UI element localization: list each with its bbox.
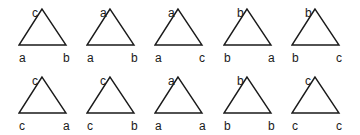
bottom-left-label: b <box>292 52 299 64</box>
triangle-r1-c3: a a c <box>154 4 222 66</box>
apex-label: c <box>32 75 38 87</box>
bottom-left-label: a <box>87 52 94 64</box>
bottom-right-label: a <box>63 120 70 132</box>
apex-label: a <box>100 7 107 19</box>
triangle-shape <box>291 4 359 66</box>
triangle-r2-c2: c c b <box>86 72 154 134</box>
bottom-left-label: b <box>224 120 231 132</box>
triangle-r2-c5: c c c <box>291 72 359 134</box>
triangle-r2-c4: b b b <box>223 72 291 134</box>
triangle-shape <box>18 72 86 134</box>
bottom-right-label: a <box>268 52 275 64</box>
bottom-right-label: b <box>131 52 138 64</box>
bottom-right-label: b <box>131 120 138 132</box>
apex-label: b <box>237 7 244 19</box>
triangle-r1-c4: b b a <box>223 4 291 66</box>
triangle-r2-c1: c c a <box>18 72 86 134</box>
triangle-shape <box>223 72 291 134</box>
bottom-right-label: c <box>336 52 342 64</box>
apex-label: b <box>237 75 244 87</box>
triangle-grid: c a b a a b a a c b b a b b c c c a c c … <box>0 0 360 135</box>
bottom-right-label: a <box>199 120 206 132</box>
bottom-right-label: b <box>63 52 70 64</box>
bottom-right-label: c <box>336 120 342 132</box>
apex-label: a <box>168 7 175 19</box>
apex-label: c <box>32 7 38 19</box>
bottom-left-label: b <box>224 52 231 64</box>
triangle-shape <box>18 4 86 66</box>
bottom-left-label: c <box>292 120 298 132</box>
bottom-left-label: c <box>87 120 93 132</box>
bottom-left-label: a <box>155 52 162 64</box>
apex-label: a <box>168 75 175 87</box>
bottom-right-label: c <box>199 52 205 64</box>
triangle-shape <box>223 4 291 66</box>
apex-label: b <box>305 7 312 19</box>
triangle-shape <box>154 4 222 66</box>
triangle-r2-c3: a a a <box>154 72 222 134</box>
triangle-shape <box>86 72 154 134</box>
triangle-shape <box>86 4 154 66</box>
apex-label: c <box>305 75 311 87</box>
triangle-r1-c2: a a b <box>86 4 154 66</box>
bottom-left-label: c <box>19 120 25 132</box>
triangle-shape <box>291 72 359 134</box>
triangle-r1-c1: c a b <box>18 4 86 66</box>
apex-label: c <box>100 75 106 87</box>
bottom-left-label: a <box>19 52 26 64</box>
bottom-left-label: a <box>155 120 162 132</box>
bottom-right-label: b <box>268 120 275 132</box>
triangle-shape <box>154 72 222 134</box>
triangle-r1-c5: b b c <box>291 4 359 66</box>
